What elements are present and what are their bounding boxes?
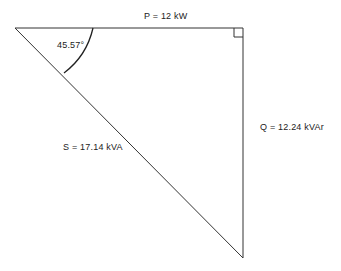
angle-label: 45.57° [57, 40, 84, 50]
reactive-power-label: Q = 12.24 kVAr [260, 122, 324, 132]
right-angle-marker [234, 28, 243, 37]
real-power-label: P = 12 kW [144, 11, 187, 21]
apparent-power-label: S = 17.14 kVA [63, 142, 123, 152]
angle-arc [64, 28, 93, 73]
power-triangle-diagram [0, 0, 341, 271]
side-s-apparent-power [15, 28, 243, 258]
